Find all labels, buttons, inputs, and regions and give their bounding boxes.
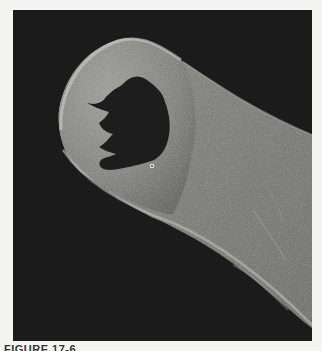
- figure-caption: FIGURE 17-6: [4, 344, 76, 351]
- micrograph-image: [13, 10, 312, 341]
- micrograph-svg: [13, 10, 312, 341]
- figure: FIGURE 17-6: [0, 0, 322, 351]
- amphid-dot-center: [151, 165, 153, 167]
